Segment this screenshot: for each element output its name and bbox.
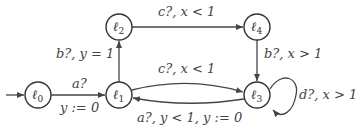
- edge-l3-l1: [133, 98, 244, 103]
- state-l3: ℓ3: [244, 82, 270, 108]
- state-l0: ℓ0: [25, 82, 51, 108]
- edge-l3-l1-label: a?, y < 1, y := 0: [137, 110, 242, 125]
- state-l2: ℓ2: [106, 14, 132, 40]
- edge-l1-l3: [132, 83, 243, 92]
- edge-l0-l1-label-bottom: y := 0: [59, 100, 99, 115]
- edge-l3-self-label: d?, x > 1: [299, 87, 357, 102]
- edge-l4-l3-label: b?, x > 1: [264, 46, 322, 61]
- edge-l1-l2-label: b?, y = 1: [56, 46, 114, 61]
- automaton-diagram: a? y := 0 b?, y = 1 c?, x < 1 b?, x > 1 …: [0, 0, 360, 132]
- state-l4: ℓ4: [244, 14, 270, 40]
- edge-l0-l1-label-top: a?: [72, 76, 88, 91]
- edge-l2-l4-label: c?, x < 1: [158, 4, 215, 19]
- edge-l1-l3-label: c?, x < 1: [158, 61, 215, 76]
- edge-l3-self-loop: [270, 78, 297, 114]
- state-l1: ℓ1: [106, 82, 132, 108]
